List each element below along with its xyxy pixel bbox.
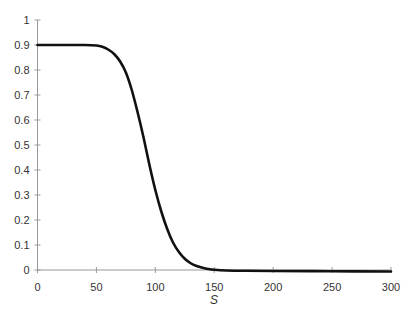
x-tick-label: 300: [382, 281, 400, 293]
y-axis: 00.10.20.30.40.50.60.70.80.91: [14, 14, 40, 276]
line-chart: 00.10.20.30.40.50.60.70.80.91 0501001502…: [0, 0, 415, 320]
y-tick-label: 0: [23, 264, 29, 276]
y-tick-label: 0.1: [14, 239, 29, 251]
x-tick-label: 200: [264, 281, 282, 293]
y-tick-label: 0.6: [14, 114, 29, 126]
y-tick-label: 0.4: [14, 164, 29, 176]
y-tick-label: 0.2: [14, 214, 29, 226]
data-line: [38, 45, 392, 272]
x-axis-title: S: [210, 293, 218, 307]
y-tick-label: 0.8: [14, 64, 29, 76]
x-tick-label: 150: [205, 281, 223, 293]
x-tick-label: 0: [34, 281, 40, 293]
y-tick-label: 0.5: [14, 139, 29, 151]
y-tick-label: 0.3: [14, 189, 29, 201]
x-tick-label: 100: [146, 281, 164, 293]
y-tick-label: 0.7: [14, 89, 29, 101]
y-tick-label: 1: [23, 14, 29, 26]
x-tick-label: 250: [323, 281, 341, 293]
y-tick-label: 0.9: [14, 39, 29, 51]
x-tick-label: 50: [90, 281, 102, 293]
